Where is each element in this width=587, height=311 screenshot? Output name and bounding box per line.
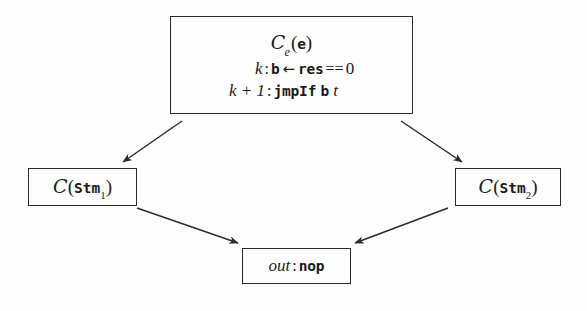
conditional-line-1: Ce(e)	[171, 30, 412, 58]
subscript-e: e	[285, 45, 290, 59]
instruction-index-k-plus-1: k + 1	[229, 81, 265, 100]
compile-stm2-block: C(Stm2)	[455, 168, 561, 206]
edge-stm1-to-out	[137, 208, 238, 243]
stm2-label: C(Stm2)	[478, 174, 537, 200]
calligraphic-c-glyph: C	[53, 175, 68, 197]
nop-instruction: nop	[299, 258, 325, 274]
calligraphic-c-glyph: C	[271, 31, 286, 53]
equality-operator: ==	[324, 60, 346, 77]
colon-separator: :	[262, 60, 270, 77]
res-operand: res	[298, 61, 324, 77]
edge-cond-to-stm2	[401, 121, 462, 162]
stm1-label: C(Stm1)	[53, 174, 112, 200]
colon-separator-3: :	[290, 257, 298, 274]
stm-token: Stm	[500, 180, 526, 196]
out-identifier: out	[269, 256, 291, 275]
calligraphic-c-glyph: C	[478, 175, 493, 197]
out-nop-block: out:nop	[242, 248, 351, 284]
jmpif-operand-b: b	[320, 83, 329, 99]
conditional-code-block: Ce(e) k:b←res==0 k + 1:jmpIf b t	[170, 16, 413, 114]
out-label: out:nop	[269, 255, 325, 277]
colon-separator-2: :	[265, 82, 273, 99]
subscript-1: 1	[100, 189, 106, 201]
left-arrow-icon: ←	[279, 60, 298, 78]
compilation-flow-diagram: Ce(e) k:b←res==0 k + 1:jmpIf b t C(Stm1)…	[0, 0, 587, 311]
close-paren: )	[531, 176, 537, 197]
zero-literal: 0	[346, 59, 355, 78]
jmpif-target-t: t	[333, 81, 338, 100]
close-paren: )	[306, 32, 312, 53]
edge-cond-to-stm1	[123, 121, 182, 162]
jmpif-instruction: jmpIf	[274, 83, 317, 99]
subscript-2: 2	[526, 189, 532, 201]
edge-stm2-to-out	[355, 208, 448, 243]
conditional-line-3: k + 1:jmpIf b t	[163, 80, 420, 102]
close-paren: )	[106, 176, 112, 197]
conditional-line-2: k:b←res==0	[158, 58, 425, 80]
expression-arg: e	[297, 36, 306, 52]
stm-token: Stm	[74, 180, 100, 196]
compile-stm1-block: C(Stm1)	[28, 168, 137, 206]
